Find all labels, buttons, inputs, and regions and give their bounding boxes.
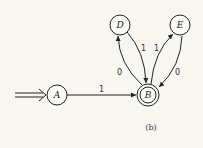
edge-label-e-to-b: 0 bbox=[175, 68, 180, 77]
edge-d-to-b bbox=[127, 32, 146, 83]
state-e-label: E bbox=[176, 20, 184, 30]
edge-label-b-to-e: 1 bbox=[154, 44, 159, 53]
edge-label-b-to-d: 0 bbox=[117, 68, 122, 77]
edge-b-to-d bbox=[118, 36, 142, 85]
start-arrow bbox=[15, 89, 46, 101]
edge-e-to-b bbox=[159, 36, 182, 87]
state-a: A bbox=[47, 85, 67, 105]
state-e: E bbox=[170, 15, 190, 35]
state-d: D bbox=[110, 15, 130, 35]
state-diagram: 1 0 1 1 0 A B D E (b) bbox=[0, 0, 203, 148]
state-b-label: B bbox=[144, 90, 152, 100]
edge-b-to-e bbox=[151, 34, 173, 84]
state-b-accepting: B bbox=[137, 84, 159, 106]
edge-label-a-to-b: 1 bbox=[99, 85, 104, 94]
edge-label-d-to-b: 1 bbox=[141, 44, 146, 53]
figure-caption: (b) bbox=[145, 123, 156, 132]
state-d-label: D bbox=[115, 20, 123, 30]
state-a-label: A bbox=[53, 90, 61, 100]
